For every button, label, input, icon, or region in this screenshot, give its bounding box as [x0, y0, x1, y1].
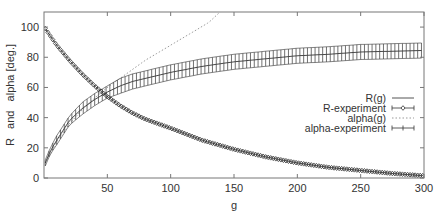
y-tick-label: 60: [27, 81, 39, 93]
chart-svg: 50100150200250300020406080100 g R and al…: [0, 0, 438, 216]
x-tick-label: 100: [161, 182, 179, 194]
x-tick-label: 200: [288, 182, 306, 194]
x-tick-label: 50: [101, 182, 113, 194]
y-tick-label: 20: [27, 142, 39, 154]
legend-label: alpha-experiment: [305, 122, 386, 134]
legend: R(g)R-experimentalpha(g)alpha-experiment: [305, 92, 414, 134]
x-tick-label: 300: [415, 182, 433, 194]
chart-container: 50100150200250300020406080100 g R and al…: [0, 0, 438, 216]
y-tick-label: 100: [21, 21, 39, 33]
y-tick-label: 80: [27, 51, 39, 63]
x-tick-label: 150: [225, 182, 243, 194]
y-tick-label: 0: [33, 172, 39, 184]
y-axis-label: R and alpha [deg.]: [4, 44, 16, 146]
legend-diamond-icon: [401, 106, 405, 111]
y-tick-label: 40: [27, 112, 39, 124]
x-tick-label: 250: [351, 182, 369, 194]
x-axis-label: g: [231, 199, 237, 211]
